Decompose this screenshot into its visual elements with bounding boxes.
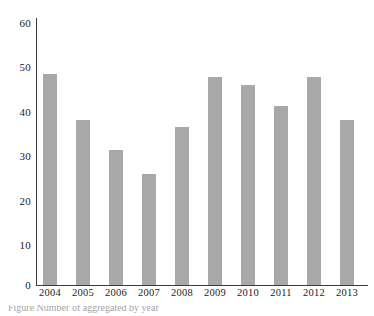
y-tick-label-20: 20 bbox=[0, 196, 31, 207]
x-tick-label-2013: 2013 bbox=[330, 287, 364, 299]
y-tick-label-10: 10 bbox=[0, 240, 31, 251]
bar-2007 bbox=[142, 174, 156, 285]
bar-series bbox=[36, 18, 368, 285]
y-tick-label-0: 0 bbox=[0, 280, 31, 291]
x-axis-tick-labels: 2004 2005 2006 2007 2008 2009 2010 2011 … bbox=[36, 287, 368, 301]
y-tick-label-60: 60 bbox=[0, 18, 31, 29]
x-tick-label-2011: 2011 bbox=[264, 287, 298, 299]
x-tick-label-2004: 2004 bbox=[33, 287, 67, 299]
bar-2012 bbox=[307, 77, 321, 285]
bar-2011 bbox=[274, 106, 288, 285]
bar-2004 bbox=[43, 74, 57, 285]
figure-caption: Figure Number of aggregated by year bbox=[8, 305, 368, 316]
x-tick-label-2010: 2010 bbox=[231, 287, 265, 299]
x-tick-label-2007: 2007 bbox=[132, 287, 166, 299]
x-tick-label-2012: 2012 bbox=[297, 287, 331, 299]
bar-chart-figure: 60 50 40 30 20 10 0 2004 2005 2006 2007 … bbox=[0, 0, 374, 316]
x-tick-label-2005: 2005 bbox=[66, 287, 100, 299]
bar-2009 bbox=[208, 77, 222, 285]
bar-2005 bbox=[76, 120, 90, 286]
y-tick-label-50: 50 bbox=[0, 62, 31, 73]
y-tick-label-40: 40 bbox=[0, 107, 31, 118]
x-tick-label-2006: 2006 bbox=[99, 287, 133, 299]
x-tick-label-2008: 2008 bbox=[165, 287, 199, 299]
x-axis-line bbox=[36, 285, 368, 286]
bar-2013 bbox=[340, 120, 354, 285]
bar-2008 bbox=[175, 127, 189, 285]
x-tick-label-2009: 2009 bbox=[198, 287, 232, 299]
figure-caption-text: Figure Number of aggregated by year bbox=[8, 305, 368, 313]
y-axis-tick-labels: 60 50 40 30 20 10 0 bbox=[0, 0, 33, 316]
bar-2006 bbox=[109, 150, 123, 285]
y-tick-label-30: 30 bbox=[0, 151, 31, 162]
bar-2010 bbox=[241, 85, 255, 285]
